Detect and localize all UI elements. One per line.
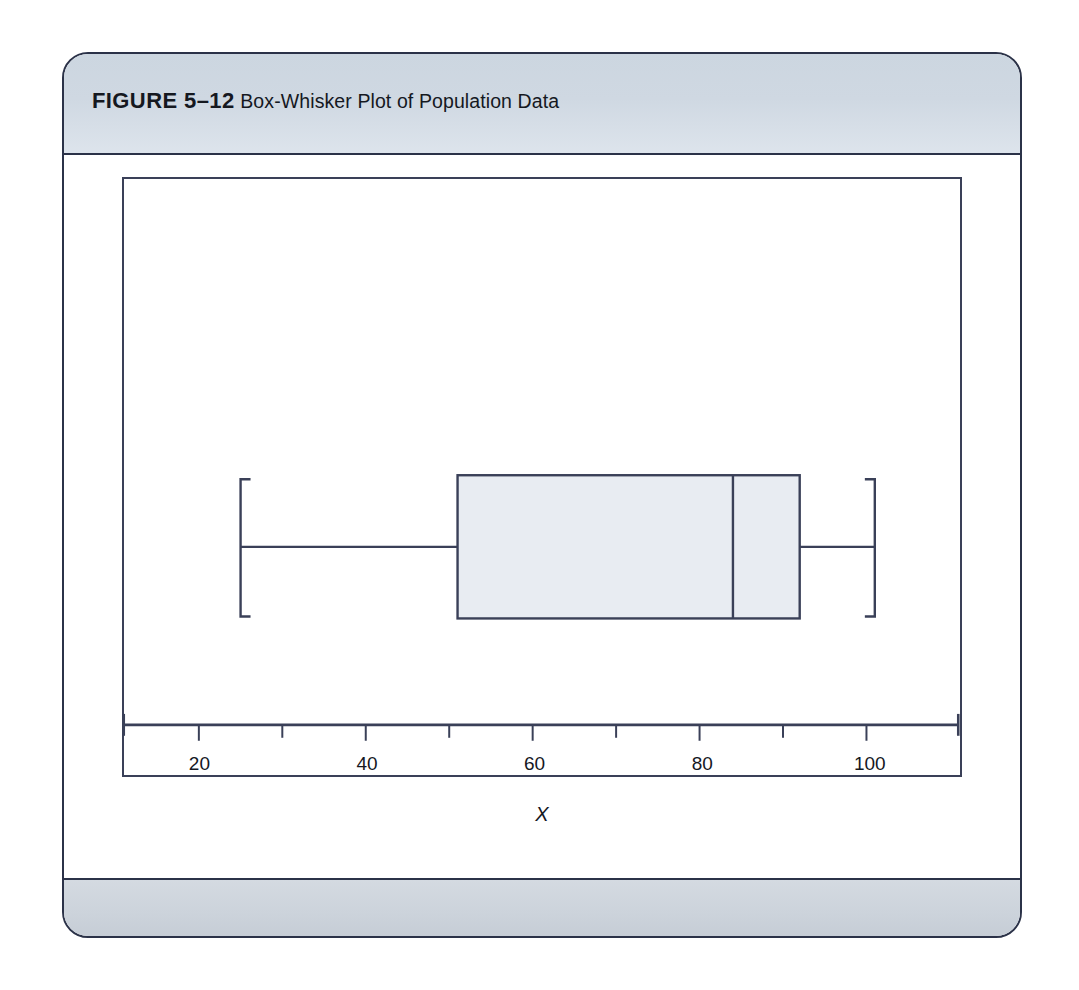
x-tick-label-100: 100 bbox=[854, 753, 886, 775]
figure-number-label: FIGURE 5–12 bbox=[92, 88, 235, 113]
figure-header-band: FIGURE 5–12 Box-Whisker Plot of Populati… bbox=[64, 54, 1020, 155]
figure-caption: FIGURE 5–12 Box-Whisker Plot of Populati… bbox=[92, 88, 559, 114]
x-axis-title: X bbox=[64, 803, 1020, 826]
x-axis-labels: 20 40 60 80 100 X bbox=[64, 155, 1020, 878]
figure-footer-band bbox=[64, 878, 1020, 936]
plot-area: 20 40 60 80 100 X bbox=[64, 155, 1020, 878]
x-tick-label-80: 80 bbox=[692, 753, 713, 775]
x-tick-label-20: 20 bbox=[189, 753, 210, 775]
figure-title-text: Box-Whisker Plot of Population Data bbox=[240, 90, 559, 112]
x-tick-label-60: 60 bbox=[524, 753, 545, 775]
x-tick-label-40: 40 bbox=[356, 753, 377, 775]
figure-card: FIGURE 5–12 Box-Whisker Plot of Populati… bbox=[62, 52, 1022, 938]
